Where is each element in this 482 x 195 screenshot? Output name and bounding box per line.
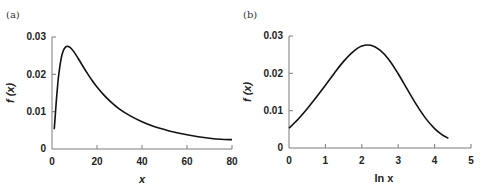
y-axis-a: 0 0.01 0.02 0.03 f (x)	[4, 31, 56, 154]
y-tick-label: 0	[277, 142, 283, 153]
y-tick-label: 0.02	[27, 69, 47, 80]
y-tick-label: 0.03	[27, 31, 47, 42]
y-axis-title-a: f (x)	[4, 83, 16, 104]
y-tick-label: 0.02	[264, 68, 284, 79]
x-axis-b: 0 1 2 3 4 5 ln x	[286, 144, 474, 184]
chart-a: (a) 0 0.01 0.02 0.03 f (x) 0 20 40 60 80…	[4, 9, 238, 185]
figure: (a) 0 0.01 0.02 0.03 f (x) 0 20 40 60 80…	[0, 0, 482, 195]
x-axis-title-b: ln x	[375, 172, 395, 184]
x-axis-title-a: x	[138, 173, 146, 185]
y-tick-label: 0.01	[264, 105, 284, 116]
panel-label-a: (a)	[6, 9, 20, 20]
panel-label-b: (b)	[243, 9, 257, 20]
data-curve-a	[54, 46, 232, 139]
x-tick-label: 60	[181, 156, 193, 167]
x-tick-label: 4	[432, 155, 438, 166]
x-tick-label: 1	[323, 155, 329, 166]
x-tick-label: 5	[468, 155, 474, 166]
x-tick-label: 0	[286, 155, 292, 166]
x-axis-a: 0 20 40 60 80 x	[49, 145, 238, 185]
x-tick-label: 80	[226, 156, 238, 167]
y-tick-label: 0	[40, 143, 46, 154]
y-tick-label: 0.03	[264, 30, 284, 41]
x-tick-label: 0	[49, 156, 55, 167]
data-curve-b	[289, 45, 448, 138]
x-tick-label: 20	[91, 156, 103, 167]
y-axis-title-b: f (x)	[241, 82, 253, 103]
x-tick-label: 2	[359, 155, 365, 166]
x-tick-label: 40	[136, 156, 148, 167]
y-axis-b: 0 0.01 0.02 0.03 f (x)	[241, 30, 293, 153]
x-tick-label: 3	[395, 155, 401, 166]
y-tick-label: 0.01	[27, 106, 47, 117]
chart-b: (b) 0 0.01 0.02 0.03 f (x) 0 1 2 3 4 5 l…	[241, 9, 474, 184]
